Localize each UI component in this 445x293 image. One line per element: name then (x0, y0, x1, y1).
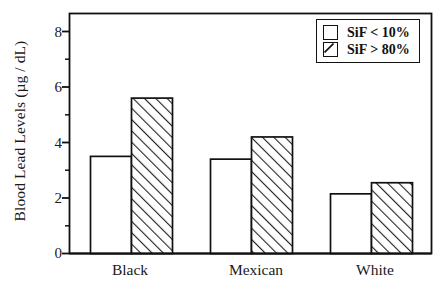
bar-black-sif-lt-10 (91, 156, 132, 253)
y-axis-major-ticks (62, 32, 70, 254)
chart-legend: SiF < 10% SiF > 80% (316, 19, 420, 63)
bar-white-sif-gt-80 (372, 183, 413, 254)
bar-group-mexican (211, 137, 293, 254)
legend-swatch-open-square (323, 25, 338, 40)
legend-label-sif-lt-10: SiF < 10% (347, 25, 410, 41)
legend-label-sif-gt-80: SiF > 80% (347, 42, 410, 58)
legend-swatch-hatched-square (323, 42, 338, 57)
bar-mexican-sif-lt-10 (211, 159, 252, 253)
legend-item-sif-lt-10: SiF < 10% (323, 24, 410, 41)
bar-black-sif-gt-80 (132, 98, 173, 253)
bar-group-white (331, 183, 413, 254)
bar-group-black (91, 98, 173, 253)
chart-figure: Blood Lead Levels (µg / dL) 8 6 4 2 0 Bl… (0, 0, 445, 293)
bar-mexican-sif-gt-80 (252, 137, 293, 254)
bar-white-sif-lt-10 (331, 194, 372, 254)
legend-item-sif-gt-80: SiF > 80% (323, 41, 410, 58)
